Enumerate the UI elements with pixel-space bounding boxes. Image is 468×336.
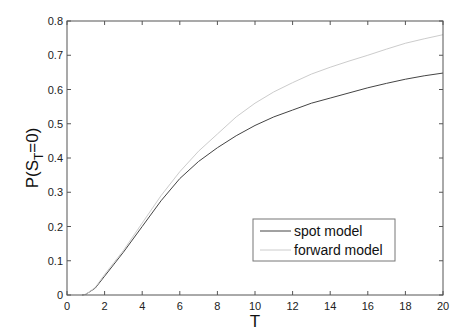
y-tick-label: 0.8 [48,15,63,27]
series-spot-model [82,73,443,295]
legend-label-spot: spot model [294,223,362,239]
x-axis: 02468101214161820 [64,21,449,312]
y-tick-label: 0.7 [48,49,63,61]
y-tick-label: 0.2 [48,221,63,233]
x-tick-label: 18 [399,300,411,312]
x-axis-label: T [250,312,260,331]
x-tick-label: 8 [214,300,220,312]
x-tick-label: 16 [362,300,374,312]
y-tick-label: 0.3 [48,186,63,198]
y-tick-label: 0.6 [48,84,63,96]
x-tick-label: 12 [286,300,298,312]
x-tick-label: 0 [64,300,70,312]
x-tick-label: 2 [102,300,108,312]
legend-label-forward: forward model [294,242,383,258]
x-tick-label: 6 [177,300,183,312]
y-tick-label: 0 [57,289,63,301]
y-tick-label: 0.4 [48,152,63,164]
y-tick-label: 0.5 [48,118,63,130]
x-tick-label: 14 [324,300,336,312]
x-tick-label: 20 [437,300,449,312]
line-chart: 02468101214161820 00.10.20.30.40.50.60.7… [0,0,468,336]
legend: spot model forward model [253,219,395,261]
x-tick-label: 10 [249,300,261,312]
y-tick-label: 0.1 [48,255,63,267]
x-tick-label: 4 [139,300,145,312]
y-axis-label: P(ST=0) [23,128,46,189]
